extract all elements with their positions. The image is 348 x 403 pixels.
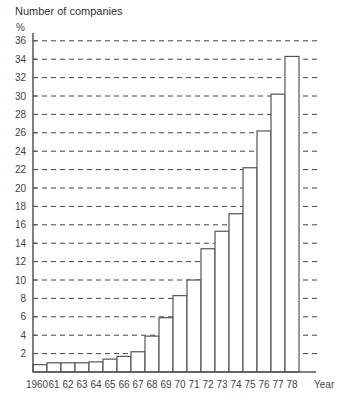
x-tick-label: 77 [272,379,284,390]
x-tick-label: 65 [104,379,116,390]
x-tick-label: 69 [160,379,172,390]
bar-68 [145,336,159,372]
bar-78 [285,56,299,372]
bars [33,56,299,372]
y-tick-label: 34 [15,54,27,65]
bar-77 [271,94,285,372]
x-tick-label: 74 [230,379,242,390]
x-tick-label: 78 [286,379,298,390]
x-tick-label: 63 [76,379,88,390]
y-tick-label: 28 [15,109,27,120]
y-tick-label: 32 [15,72,27,83]
y-tick-label: 6 [20,311,26,322]
y-tick-label: 16 [15,219,27,230]
x-tick-label: 61 [48,379,60,390]
x-tick-label: 73 [216,379,228,390]
bar-69 [159,318,173,372]
x-tick-label: 67 [132,379,144,390]
x-tick-label: 64 [90,379,102,390]
y-tick-label: 36 [15,35,27,46]
x-tick-label: 76 [258,379,270,390]
bar-74 [229,214,243,372]
x-tick-label: 1960 [26,379,49,390]
bar-64 [89,362,103,372]
bar-66 [117,356,131,372]
bar-65 [103,359,117,372]
y-tick-label: 10 [15,275,27,286]
bar-75 [243,168,257,372]
bar-67 [131,352,145,372]
x-axis-title: Year [314,379,335,390]
x-tick-label: 68 [146,379,158,390]
y-tick-label: 12 [15,256,27,267]
bar-76 [257,131,271,372]
x-tick-label: 75 [244,379,256,390]
x-tick-label: 72 [202,379,214,390]
bar-62 [61,363,75,372]
x-tick-label: 62 [62,379,74,390]
y-tick-label: 8 [20,293,26,304]
y-tick-label: 20 [15,183,27,194]
x-tick-label: 71 [188,379,200,390]
y-tick-label: 18 [15,201,27,212]
bar-61 [47,363,61,372]
y-tick-label: 26 [15,127,27,138]
bar-chart: 24681012141618202224262830323436 1960616… [0,0,348,403]
y-tick-label: 2 [20,348,26,359]
y-tick-label: 30 [15,91,27,102]
bar-71 [187,280,201,372]
bar-63 [75,363,89,372]
x-axis-labels: 1960616263646566676869707172737475767778 [26,379,298,390]
y-tick-label: 14 [15,238,27,249]
x-tick-label: 66 [118,379,130,390]
bar-70 [173,296,187,372]
x-tick-label: 70 [174,379,186,390]
y-tick-label: 4 [20,330,26,341]
y-tick-label: 24 [15,146,27,157]
bar-1960 [33,365,47,372]
bar-72 [201,249,215,372]
y-tick-label: 22 [15,164,27,175]
bar-73 [215,231,229,372]
